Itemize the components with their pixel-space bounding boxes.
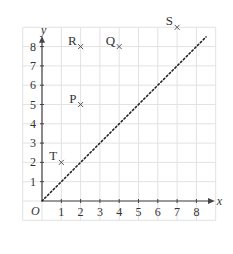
dotted-line <box>42 37 206 201</box>
y-tick-label: 7 <box>30 59 36 73</box>
x-tick-label: 3 <box>97 205 103 219</box>
x-tick-label: 7 <box>174 205 180 219</box>
y-axis-label: y <box>40 23 47 37</box>
y-tick-label: 4 <box>30 117 36 131</box>
x-tick-label: 6 <box>155 205 161 219</box>
tick-labels: 1234567812345678 <box>30 40 199 219</box>
x-tick-label: 2 <box>78 205 84 219</box>
x-axis-arrow-icon <box>208 198 215 204</box>
point-label: R <box>68 33 77 48</box>
point-label: P <box>69 91 76 106</box>
point-label: S <box>166 13 173 28</box>
y-tick-label: 2 <box>30 155 36 169</box>
dotted-line-y-equals-x <box>42 37 206 201</box>
axes: xyO <box>31 23 223 218</box>
y-tick-label: 3 <box>30 136 36 150</box>
x-tick-label: 8 <box>193 205 199 219</box>
y-tick-label: 8 <box>30 40 36 54</box>
origin-label: O <box>31 204 40 218</box>
point-s: S <box>166 13 180 30</box>
x-tick-label: 1 <box>58 205 64 219</box>
x-axis-label: x <box>216 194 223 208</box>
x-tick-label: 5 <box>136 205 142 219</box>
x-tick-label: 4 <box>116 205 122 219</box>
point-label: T <box>49 148 57 163</box>
y-tick-label: 1 <box>30 175 36 189</box>
plotted-points: RQSPT <box>49 13 179 165</box>
y-tick-label: 6 <box>30 78 36 92</box>
y-tick-label: 5 <box>30 98 36 112</box>
point-label: Q <box>106 33 116 48</box>
coordinate-grid-chart: xyO 1234567812345678 RQSPT <box>0 0 233 254</box>
